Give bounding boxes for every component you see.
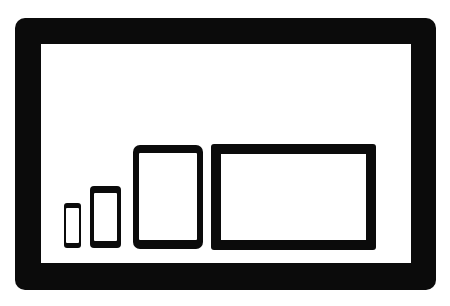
illustration-canvas: Responsive Design Device Sizes Monochrom…: [0, 0, 450, 306]
monitor-frame-icon: Small Phone Large Phone Tablet Desktop M…: [15, 18, 436, 290]
outer-screen-area: Small Phone Large Phone Tablet Desktop M…: [41, 44, 411, 263]
smartphone-large-icon: Large Phone: [90, 186, 121, 248]
desktop-monitor-screen: [221, 154, 366, 240]
smartphone-small-screen: [66, 208, 79, 243]
device-size-row: Small Phone Large Phone Tablet Desktop M…: [41, 44, 411, 263]
smartphone-large-label: Large Phone: [89, 185, 90, 186]
tablet-icon: Tablet: [133, 145, 203, 249]
tablet-label: Tablet: [132, 144, 133, 145]
desktop-monitor-label: Desktop Monitor: [210, 143, 211, 144]
tablet-screen: [139, 153, 197, 240]
smartphone-large-screen: [94, 193, 117, 241]
desktop-monitor-icon: Desktop Monitor: [211, 144, 376, 250]
smartphone-small-icon: Small Phone: [64, 203, 81, 248]
smartphone-small-label: Small Phone: [63, 202, 64, 203]
